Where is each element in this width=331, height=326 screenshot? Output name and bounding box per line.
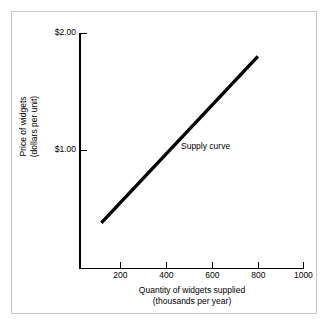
x-axis-title-line1: Quantity of widgets supplied [79, 285, 305, 296]
y-axis-title-line1: Price of widgets [18, 67, 29, 187]
x-tick-label-800: 800 [241, 271, 275, 280]
y-tick-label-1-00: $1.00 [38, 145, 76, 154]
supply-curve-figure: $2.00 $1.00 200 400 600 800 1000 Price o… [0, 0, 331, 326]
x-tick-600 [212, 262, 213, 268]
x-axis-line [79, 268, 304, 270]
supply-curve-annotation: Supply curve [181, 141, 230, 151]
x-tick-400 [166, 262, 167, 268]
x-tick-label-1000: 1000 [286, 271, 320, 280]
x-tick-label-600: 600 [195, 271, 229, 280]
y-tick-2-00 [81, 33, 87, 34]
x-tick-label-200: 200 [103, 271, 137, 280]
x-tick-200 [120, 262, 121, 268]
x-tick-1000 [303, 262, 304, 268]
y-axis-title-line2: (dollars per unit) [28, 67, 39, 187]
y-tick-1-00 [81, 150, 87, 151]
y-tick-label-2-00: $2.00 [38, 28, 76, 37]
y-axis-title: Price of widgets (dollars per unit) [18, 67, 39, 187]
x-tick-800 [258, 262, 259, 268]
x-tick-label-400: 400 [149, 271, 183, 280]
x-axis-title-line2: (thousands per year) [79, 296, 305, 307]
x-axis-title: Quantity of widgets supplied (thousands … [79, 285, 305, 307]
